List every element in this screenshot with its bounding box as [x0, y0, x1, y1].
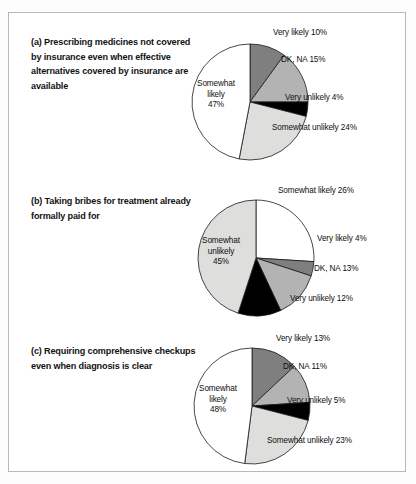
- panel-b-title: (b) Taking bribes for treatment already …: [31, 194, 199, 223]
- pie-a-inner-label: Somewhat likely 47%: [185, 79, 247, 111]
- pie-c-label-very-unlikely: Very unlikely 5%: [287, 396, 345, 405]
- pie-slice: [250, 44, 284, 102]
- pie-b-label-dk-na: DK, NA 13%: [314, 264, 359, 273]
- chart-panel-a: (a) Prescribing medicines not covered by…: [9, 15, 407, 168]
- pie-b-inner-label: Somewhat unlikely 45%: [187, 236, 255, 268]
- pie-b-label-somewhat-likely: Somewhat likely 26%: [278, 186, 354, 195]
- chart-panel-b: (b) Taking bribes for treatment already …: [9, 168, 407, 321]
- pie-b-inner-line3: 45%: [187, 257, 255, 268]
- pie-c-inner-line2: likely: [187, 395, 249, 406]
- chart-panel-c: (c) Requiring comprehensive checkups eve…: [9, 318, 407, 471]
- pie-a-label-dk-na: DK, NA 15%: [281, 55, 326, 64]
- pie-b-inner-line1: Somewhat: [187, 236, 255, 247]
- panel-c-title: (c) Requiring comprehensive checkups eve…: [31, 344, 199, 373]
- pie-a-label-very-unlikely: Very unlikely 4%: [285, 93, 343, 102]
- figure-frame: (a) Prescribing medicines not covered by…: [8, 12, 406, 472]
- pie-c-label-somewhat-unlikely: Somewhat unlikely 23%: [267, 436, 352, 445]
- pie-a-inner-line3: 47%: [185, 100, 247, 111]
- panel-a-title: (a) Prescribing medicines not covered by…: [31, 35, 199, 93]
- pie-b-label-very-likely: Very likely 4%: [317, 234, 367, 243]
- pie-c-inner-line3: 48%: [187, 405, 249, 416]
- pie-a-inner-line2: likely: [185, 90, 247, 101]
- pie-slice: [252, 402, 310, 420]
- pie-b-label-very-unlikely: Very unlikely 12%: [290, 294, 353, 303]
- pie-slice: [256, 200, 314, 262]
- pie-c-inner-label: Somewhat likely 48%: [187, 384, 249, 416]
- pie-a-inner-line1: Somewhat: [185, 79, 247, 90]
- pie-b-inner-line2: unlikely: [187, 247, 255, 258]
- pie-slice: [245, 406, 308, 464]
- pie-c-label-very-likely: Very likely 13%: [276, 334, 330, 343]
- pie-slice: [256, 258, 314, 276]
- pie-a-label-somewhat-unlikely: Somewhat unlikely 24%: [272, 123, 357, 132]
- pie-slice: [250, 102, 308, 116]
- pie-c-inner-line1: Somewhat: [187, 384, 249, 395]
- pie-a-label-very-likely: Very likely 10%: [273, 28, 327, 37]
- pie-c-label-dk-na: DK, NA 11%: [283, 362, 327, 371]
